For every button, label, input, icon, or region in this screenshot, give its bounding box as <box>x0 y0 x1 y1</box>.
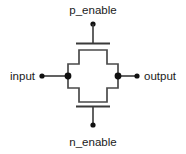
output-junction-dot <box>115 73 122 80</box>
input-terminal-dot[interactable] <box>39 73 44 78</box>
schematic-canvas: p_enable n_enable input out <box>0 0 186 154</box>
n-enable-label: n_enable <box>69 136 116 148</box>
transmission-gate-diagram: p_enable n_enable input out <box>0 0 186 154</box>
output-label: output <box>144 70 177 82</box>
transmission-gate-body <box>68 50 118 102</box>
input-junction-dot <box>65 73 72 80</box>
input-label: input <box>10 70 36 82</box>
n-enable-terminal-dot[interactable] <box>90 122 95 127</box>
output-terminal-dot[interactable] <box>134 73 139 78</box>
p-enable-label: p_enable <box>69 4 116 16</box>
